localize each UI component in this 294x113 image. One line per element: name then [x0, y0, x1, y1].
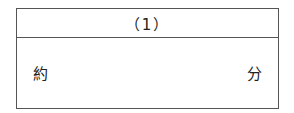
answer-field[interactable]: 約 分 — [17, 38, 278, 108]
question-number: （1） — [17, 9, 278, 38]
unit-label: 分 — [247, 62, 262, 83]
answer-box: （1） 約 分 — [16, 8, 279, 109]
prefix-label: 約 — [33, 62, 48, 83]
